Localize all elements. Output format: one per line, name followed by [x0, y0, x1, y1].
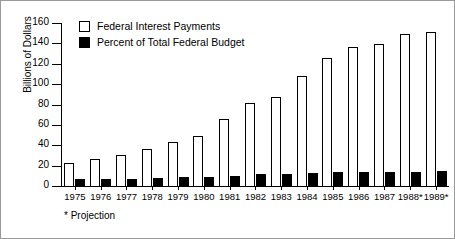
- bar-federal-interest-payments: [245, 103, 255, 186]
- y-axis-tick-label: 120: [32, 57, 49, 68]
- legend-item-federal-interest-payments: Federal Interest Payments: [79, 18, 244, 34]
- x-axis-tick-label: 1986: [346, 191, 372, 202]
- x-axis-tick: [307, 186, 308, 190]
- x-axis-tick: [384, 186, 385, 190]
- bar-group: [397, 23, 423, 186]
- x-axis-tick: [436, 186, 437, 190]
- y-axis-tick: 40: [52, 145, 61, 146]
- x-axis-tick-label: 1988*: [397, 191, 423, 202]
- bar-group: [243, 23, 269, 186]
- bar-percent-of-total-federal-budget: [333, 172, 343, 186]
- y-axis-tick-label: 0: [43, 179, 49, 190]
- x-axis-tick-label: 1977: [114, 191, 140, 202]
- x-axis-tick: [204, 186, 205, 190]
- x-axis-tick-label: 1983: [268, 191, 294, 202]
- x-axis-tick: [410, 186, 411, 190]
- x-axis-tick: [126, 186, 127, 190]
- bar-federal-interest-payments: [116, 155, 126, 186]
- chart-figure: Billions of Dollars 02040608010012014016…: [0, 0, 455, 239]
- x-axis-tick: [281, 186, 282, 190]
- x-axis-tick-label: 1984: [294, 191, 320, 202]
- bar-group: [346, 23, 372, 186]
- x-axis-tick: [178, 186, 179, 190]
- x-axis-labels: 1975197619771978197919801981198219831984…: [62, 191, 449, 202]
- bar-federal-interest-payments: [90, 159, 100, 187]
- legend-label: Percent of Total Federal Budget: [97, 36, 244, 48]
- bar-federal-interest-payments: [426, 32, 436, 186]
- bar-federal-interest-payments: [271, 97, 281, 186]
- y-axis-tick-label: 160: [32, 16, 49, 27]
- y-axis-tick-label: 140: [32, 36, 49, 47]
- bar-percent-of-total-federal-budget: [282, 174, 292, 186]
- bar-group: [372, 23, 398, 186]
- x-axis-tick: [75, 186, 76, 190]
- bar-federal-interest-payments: [142, 149, 152, 186]
- bar-percent-of-total-federal-budget: [308, 173, 318, 186]
- bar-federal-interest-payments: [348, 47, 358, 186]
- bar-percent-of-total-federal-budget: [75, 179, 85, 186]
- x-axis-tick: [230, 186, 231, 190]
- filled-square-icon: [79, 37, 90, 48]
- bar-percent-of-total-federal-budget: [127, 179, 137, 186]
- bar-percent-of-total-federal-budget: [385, 172, 395, 186]
- bar-group: [268, 23, 294, 186]
- x-axis-tick-label: 1978: [139, 191, 165, 202]
- y-axis-title: Billions of Dollars: [22, 0, 33, 135]
- bar-federal-interest-payments: [219, 119, 229, 186]
- x-axis-tick-label: 1981: [217, 191, 243, 202]
- bar-federal-interest-payments: [64, 163, 74, 186]
- bar-percent-of-total-federal-budget: [153, 178, 163, 186]
- y-axis-tick: 60: [52, 125, 61, 126]
- x-axis-tick-label: 1976: [88, 191, 114, 202]
- y-axis-tick-label: 20: [38, 159, 49, 170]
- y-axis-tick: 140: [52, 43, 61, 44]
- x-axis-tick-label: 1982: [243, 191, 269, 202]
- bar-federal-interest-payments: [297, 76, 307, 186]
- bar-percent-of-total-federal-budget: [179, 177, 189, 186]
- bar-percent-of-total-federal-budget: [437, 171, 447, 186]
- bar-percent-of-total-federal-budget: [101, 179, 111, 186]
- footnote: * Projection: [64, 210, 115, 221]
- x-axis-tick-label: 1989*: [423, 191, 449, 202]
- bar-percent-of-total-federal-budget: [230, 176, 240, 186]
- y-axis-tick: 160: [52, 23, 61, 24]
- bar-percent-of-total-federal-budget: [411, 172, 421, 186]
- y-axis-tick: 20: [52, 166, 61, 167]
- x-axis-tick: [152, 186, 153, 190]
- x-axis-tick-label: 1975: [62, 191, 88, 202]
- x-axis-tick: [333, 186, 334, 190]
- bar-federal-interest-payments: [374, 44, 384, 186]
- x-axis-tick-label: 1985: [320, 191, 346, 202]
- x-axis-tick-label: 1987: [372, 191, 398, 202]
- y-axis-tick-label: 40: [38, 138, 49, 149]
- legend-label: Federal Interest Payments: [97, 20, 220, 32]
- bar-federal-interest-payments: [322, 58, 332, 186]
- bar-federal-interest-payments: [193, 136, 203, 186]
- bar-percent-of-total-federal-budget: [359, 172, 369, 186]
- x-axis-tick: [359, 186, 360, 190]
- bar-federal-interest-payments: [168, 142, 178, 186]
- bar-percent-of-total-federal-budget: [204, 177, 214, 186]
- hollow-square-icon: [79, 21, 90, 32]
- bar-group: [423, 23, 449, 186]
- x-axis-tick-label: 1979: [165, 191, 191, 202]
- x-axis-tick: [255, 186, 256, 190]
- y-axis-tick: 0: [52, 186, 61, 187]
- y-axis-tick: 120: [52, 64, 61, 65]
- legend-item-percent-of-total-federal-budget: Percent of Total Federal Budget: [79, 34, 244, 50]
- bar-group: [294, 23, 320, 186]
- y-axis-tick-label: 80: [38, 98, 49, 109]
- x-axis-tick: [101, 186, 102, 190]
- bar-group: [320, 23, 346, 186]
- y-axis-tick-label: 100: [32, 77, 49, 88]
- bar-federal-interest-payments: [400, 34, 410, 186]
- chart-legend: Federal Interest Payments Percent of Tot…: [79, 18, 244, 50]
- y-axis-tick-label: 60: [38, 118, 49, 129]
- y-axis-tick: 100: [52, 84, 61, 85]
- x-axis-tick-label: 1980: [191, 191, 217, 202]
- y-axis-tick: 80: [52, 105, 61, 106]
- bar-percent-of-total-federal-budget: [256, 174, 266, 186]
